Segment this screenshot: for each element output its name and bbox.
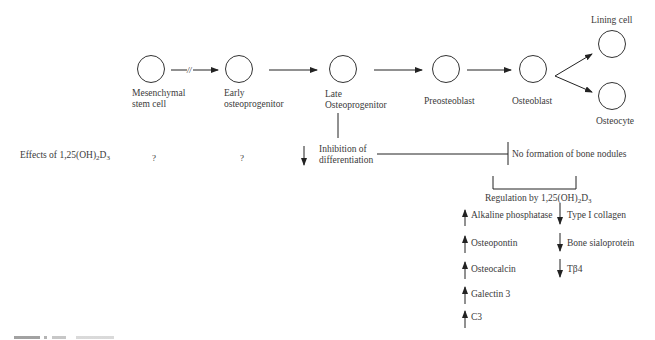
label-lining-cell: Lining cell — [591, 15, 632, 26]
effect-early-unknown: ? — [240, 153, 244, 163]
cell-preosteoblast — [433, 56, 460, 83]
label-line: Inhibition of — [319, 144, 373, 155]
label-line: osteoprogenitor — [224, 99, 284, 110]
up-osteopontin: Osteopontin — [471, 238, 517, 249]
label-line: Osteoblast — [512, 96, 552, 107]
label-line: Preosteoblast — [424, 96, 475, 107]
effect-inhibition-of-differentiation: Inhibition of differentiation — [319, 144, 373, 165]
label-line: Late — [325, 89, 387, 100]
cell-osteocyte — [599, 83, 626, 110]
figure-caption-truncated — [14, 333, 654, 340]
regulation-label: Regulation by 1,25(OH)2D3 — [485, 193, 592, 204]
label-line: stem cell — [132, 99, 185, 110]
label-early-osteoprogenitor: Early osteoprogenitor — [224, 88, 284, 109]
label-line: Osteocyte — [596, 116, 634, 127]
label-mesenchymal-stem-cell: Mesenchymal stem cell — [132, 88, 185, 109]
down-type-i-collagen: Type I collagen — [567, 210, 626, 221]
effects-row-label: Effects of 1,25(OH)2D3 — [20, 150, 110, 161]
effect-msc-unknown: ? — [152, 153, 156, 163]
diagram-lines: // — [0, 0, 655, 340]
up-c3: C3 — [471, 312, 482, 323]
cell-mesenchymal-stem — [138, 56, 165, 83]
label-line: differentiation — [319, 155, 373, 166]
label-line: Osteoprogenitor — [325, 100, 387, 111]
cell-osteoblast — [520, 56, 547, 83]
regulation-label-text: D — [581, 193, 588, 203]
label-osteoblast: Osteoblast — [512, 96, 552, 107]
break-mark: // — [186, 66, 192, 75]
cell-late-osteoprogenitor — [330, 56, 357, 83]
label-late-osteoprogenitor: Late Osteoprogenitor — [325, 89, 387, 110]
up-osteocalcin: Osteocalcin — [471, 264, 516, 275]
up-galectin-3: Galectin 3 — [471, 289, 510, 300]
down-thymosin-beta4: Tβ4 — [567, 264, 582, 275]
label-line: Lining cell — [591, 15, 632, 26]
cell-early-osteoprogenitor — [226, 56, 253, 83]
subscript: 3 — [106, 154, 110, 162]
label-osteocyte: Osteocyte — [596, 116, 634, 127]
label-preosteoblast: Preosteoblast — [424, 96, 475, 107]
up-alkaline-phosphatase: Alkaline phosphatase — [471, 210, 553, 221]
subscript: 3 — [588, 197, 592, 205]
down-bone-sialoprotein: Bone sialoprotein — [567, 238, 634, 249]
effect-no-bone-nodules: No formation of bone nodules — [512, 149, 627, 160]
label-line: Early — [224, 88, 284, 99]
effects-label-text: Effects of 1,25(OH) — [20, 150, 96, 160]
cell-lining — [599, 31, 626, 58]
regulation-label-text: Regulation by 1,25(OH) — [485, 193, 578, 203]
caption-clipped-text — [14, 336, 654, 339]
label-line: Mesenchymal — [132, 88, 185, 99]
